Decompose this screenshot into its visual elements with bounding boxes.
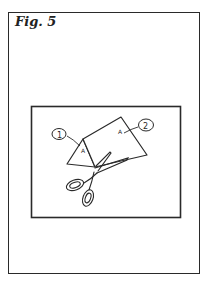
paper-piece-2 <box>83 117 147 167</box>
callout-2-number: 2 <box>143 122 148 131</box>
callout-1-number: 1 <box>57 131 62 140</box>
illustration: A A 1 2 <box>0 0 205 282</box>
callout-1-leader <box>67 136 80 146</box>
